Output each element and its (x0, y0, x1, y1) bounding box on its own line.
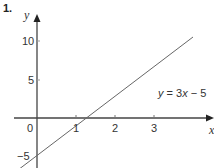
x-axis-arrow-icon (206, 115, 214, 122)
y-axis-label: y (23, 8, 30, 22)
x-tick-label-2: 2 (112, 122, 118, 134)
x-tick-label-1: 1 (73, 122, 79, 134)
equation-tail: − 5 (188, 87, 207, 99)
y-axis-arrow-icon (34, 14, 41, 22)
origin-label: 0 (27, 122, 33, 134)
y-tick-label-10: 10 (22, 35, 34, 47)
equation-mid: = 3 (164, 87, 183, 99)
equation-label: y = 3x − 5 (157, 87, 206, 99)
y-tick-label-neg5: −5 (17, 150, 30, 162)
series-line-y-3x-minus-5 (14, 37, 193, 168)
x-axis-label: x (208, 123, 214, 137)
line-graph: 0 1 2 3 5 10 −5 y x y = 3x − 5 (0, 0, 214, 168)
y-tick-label-5: 5 (28, 74, 34, 86)
x-tick-label-3: 3 (151, 122, 157, 134)
